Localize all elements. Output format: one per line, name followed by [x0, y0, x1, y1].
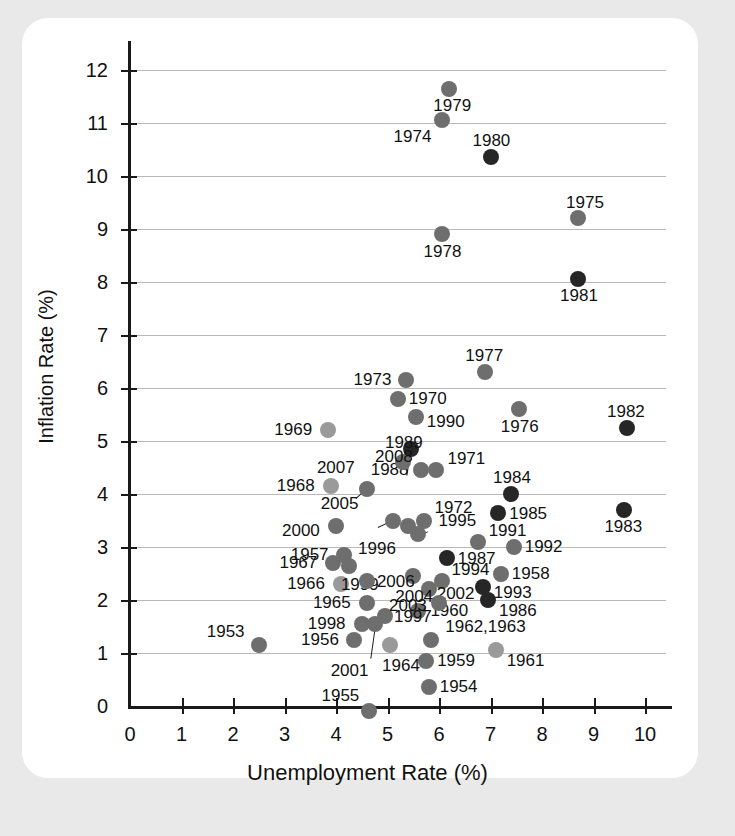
data-point-1979[interactable] [441, 81, 457, 97]
data-point-1973[interactable] [398, 372, 414, 388]
x-tick-label-1: 1 [162, 724, 202, 744]
y-tick-label-0: 0 [72, 696, 108, 716]
data-point-1961[interactable] [488, 642, 504, 658]
data-point-1978[interactable] [434, 226, 450, 242]
y-tick-label-1: 1 [72, 643, 108, 663]
data-point-1968[interactable] [323, 478, 339, 494]
data-point-1977[interactable] [477, 364, 493, 380]
data-point-1993[interactable] [475, 579, 491, 595]
data-point-1999[interactable] [341, 558, 357, 574]
data-point-1970[interactable] [390, 391, 406, 407]
x-tick-label-10: 10 [625, 724, 665, 744]
gridline-y-1 [130, 653, 666, 654]
point-label-2005: 2005 [321, 495, 359, 512]
point-label-1968: 1968 [277, 477, 315, 494]
data-point-1959[interactable] [418, 653, 434, 669]
point-label-1971: 1971 [447, 450, 485, 467]
x-tick-10 [645, 698, 647, 714]
point-label-1959: 1959 [437, 652, 475, 669]
data-point-1967[interactable] [325, 555, 341, 571]
point-label-2000: 2000 [282, 522, 320, 539]
data-point-1974[interactable] [434, 112, 450, 128]
data-point-2000[interactable] [328, 518, 344, 534]
data-point-1985[interactable] [490, 505, 506, 521]
x-axis-title: Unemployment Rate (%) [0, 760, 735, 786]
y-tick-label-3: 3 [72, 537, 108, 557]
point-label-1998: 1998 [308, 615, 346, 632]
data-point-1990[interactable] [408, 409, 424, 425]
point-label-1996: 1996 [358, 540, 396, 557]
data-point-2008[interactable] [413, 462, 429, 478]
data-point-1980[interactable] [483, 149, 499, 165]
y-tick-4 [121, 494, 137, 496]
point-label-1982: 1982 [607, 403, 645, 420]
chart-page: 0123456789101112012345678910195319541955… [0, 0, 735, 836]
point-label-1970: 1970 [409, 390, 447, 407]
data-point-1954[interactable] [421, 679, 437, 695]
point-label-1985: 1985 [509, 505, 547, 522]
data-point-1983[interactable] [616, 502, 632, 518]
y-tick-12 [121, 70, 137, 72]
x-tick-1 [182, 698, 184, 714]
x-tick-label-5: 5 [368, 724, 408, 744]
data-point-1975[interactable] [570, 210, 586, 226]
data-point-1971[interactable] [428, 462, 444, 478]
point-label-1994: 1994 [452, 561, 490, 578]
data-point-1964[interactable] [382, 637, 398, 653]
data-point-1996[interactable] [400, 518, 416, 534]
y-tick-label-11: 11 [72, 113, 108, 133]
point-label-1969: 1969 [274, 421, 312, 438]
x-tick-7 [491, 698, 493, 714]
point-label-1992: 1992 [525, 538, 563, 555]
data-point-2007[interactable] [359, 481, 375, 497]
scatter-plot: 0123456789101112012345678910195319541955… [0, 0, 735, 836]
data-point-2005[interactable] [385, 513, 401, 529]
data-point-1982[interactable] [619, 420, 635, 436]
point-label-2008: 2008 [375, 448, 413, 465]
point-label-1976: 1976 [501, 418, 539, 435]
data-point-1981[interactable] [570, 271, 586, 287]
data-point-1962-1963[interactable] [423, 632, 439, 648]
point-label-1965: 1965 [313, 594, 351, 611]
x-tick-label-6: 6 [419, 724, 459, 744]
data-point-1969[interactable] [320, 422, 336, 438]
y-axis-title: Inflation Rate (%) [35, 217, 58, 517]
point-label-1962-1963: 1962,1963 [445, 618, 525, 635]
y-tick-label-10: 10 [72, 166, 108, 186]
gridline-y-11 [130, 123, 666, 124]
x-tick-label-3: 3 [265, 724, 305, 744]
y-tick-10 [121, 176, 137, 178]
y-tick-label-4: 4 [72, 484, 108, 504]
point-label-1973: 1973 [354, 371, 392, 388]
point-label-1995: 1995 [438, 512, 476, 529]
x-tick-label-2: 2 [213, 724, 253, 744]
point-label-1953: 1953 [207, 623, 245, 640]
x-tick-label-0: 0 [110, 724, 150, 744]
data-point-1991[interactable] [470, 534, 486, 550]
y-tick-label-12: 12 [72, 60, 108, 80]
data-point-1958[interactable] [493, 566, 509, 582]
y-axis [128, 41, 131, 708]
data-point-1976[interactable] [511, 401, 527, 417]
data-point-1953[interactable] [251, 637, 267, 653]
point-label-2001: 2001 [331, 662, 369, 679]
data-point-1984[interactable] [503, 486, 519, 502]
data-point-1992[interactable] [506, 539, 522, 555]
data-point-1955[interactable] [361, 703, 377, 719]
point-label-2006: 2006 [377, 573, 415, 590]
data-point-2001[interactable] [367, 616, 383, 632]
gridline-y-9 [130, 229, 666, 230]
y-tick-label-9: 9 [72, 219, 108, 239]
gridline-y-6 [130, 388, 666, 389]
data-point-1956[interactable] [346, 632, 362, 648]
point-label-1958: 1958 [512, 565, 550, 582]
data-point-2003[interactable] [431, 595, 447, 611]
x-tick-3 [285, 698, 287, 714]
point-label-1975: 1975 [566, 194, 604, 211]
y-tick-label-6: 6 [72, 378, 108, 398]
x-tick-label-8: 8 [522, 724, 562, 744]
data-point-1965[interactable] [359, 595, 375, 611]
point-label-1980: 1980 [473, 132, 511, 149]
point-label-1978: 1978 [424, 243, 462, 260]
point-label-1977: 1977 [465, 347, 503, 364]
